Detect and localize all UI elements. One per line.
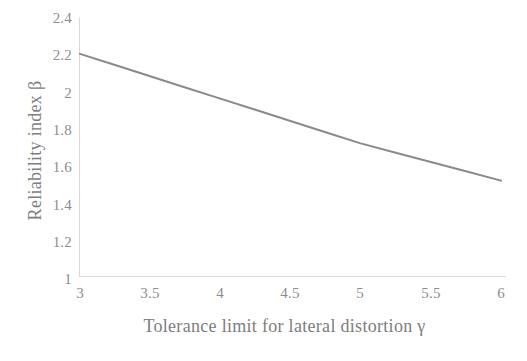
series-polyline (80, 54, 501, 181)
x-tick-label: 6 (476, 286, 526, 301)
y-tick-label: 2.4 (28, 11, 72, 26)
y-tick-label: 1 (28, 272, 72, 287)
y-axis-line (79, 18, 80, 277)
chart-figure: 2.4 2.2 2 1.8 1.6 1.4 1.2 1 3 3.5 4 4.5 … (0, 0, 527, 361)
x-tick-label: 5.5 (406, 286, 456, 301)
x-tick-label: 4.5 (265, 286, 315, 301)
x-tick-label: 5 (335, 286, 385, 301)
x-tick-label: 3.5 (125, 286, 175, 301)
y-axis-title: Reliability index β (25, 31, 46, 271)
x-axis-title: Tolerance limit for lateral distortion γ (0, 316, 527, 337)
x-axis-line (79, 276, 506, 277)
x-axis-tick-labels: 3 3.5 4 4.5 5 5.5 6 (0, 286, 527, 306)
x-tick-label: 4 (195, 286, 245, 301)
x-tick-label: 3 (55, 286, 105, 301)
